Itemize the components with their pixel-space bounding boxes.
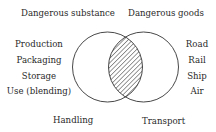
left-set-title: Dangerous substance: [21, 8, 115, 18]
left-item-storage: Storage: [4, 71, 74, 81]
right-item-road: Road: [182, 39, 212, 49]
right-item-ship: Ship: [182, 71, 212, 81]
right-item-rail: Rail: [182, 55, 212, 65]
right-item-air: Air: [182, 86, 212, 96]
venn-diagram: [0, 0, 216, 132]
left-scope-label-handling: Handling: [53, 115, 93, 125]
left-item-use-blending: Use (blending): [4, 86, 74, 96]
left-item-production: Production: [4, 39, 74, 49]
left-item-packaging: Packaging: [4, 55, 74, 65]
right-set-title: Dangerous goods: [128, 8, 204, 18]
right-scope-label-transport: Transport: [142, 116, 185, 126]
